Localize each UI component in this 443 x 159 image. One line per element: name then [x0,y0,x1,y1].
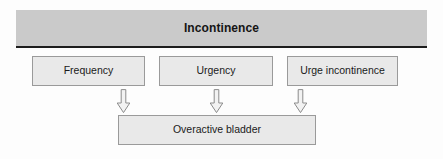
arrow-down-icon-urgency [209,89,224,114]
node-frequency: Frequency [32,56,145,86]
node-overactive-bladder-label: Overactive bladder [173,124,261,136]
page-title: Incontinence [184,21,259,35]
incontinence-diagram: Incontinence Frequency Urgency Urge inco… [0,0,443,159]
node-urgency-label: Urgency [196,65,235,77]
node-overactive-bladder: Overactive bladder [118,115,316,145]
arrow-down-icon-urge-incontinence [293,89,308,114]
node-urge-incontinence: Urge incontinence [287,56,398,86]
diagram-header-banner: Incontinence [16,10,427,48]
arrow-down-icon-frequency [116,89,131,114]
node-urgency: Urgency [159,56,273,86]
node-frequency-label: Frequency [64,65,114,77]
node-urge-incontinence-label: Urge incontinence [300,65,385,77]
